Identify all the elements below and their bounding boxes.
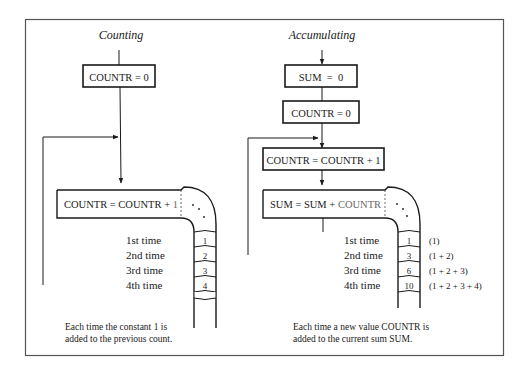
svg-text:(1 + 2 + 3): (1 + 2 + 3): [429, 266, 468, 276]
counting-init-text: COUNTR = 0: [89, 72, 149, 83]
svg-text:2: 2: [203, 251, 208, 261]
counting-panel: Counting COUNTR = 0 COUNTR = COUNTR + 1 …: [43, 28, 217, 344]
svg-text:1: 1: [407, 236, 412, 246]
svg-text:2nd time: 2nd time: [126, 249, 165, 261]
counting-title: Counting: [99, 28, 144, 42]
accumulating-caption-2: added to the current sum SUM.: [293, 334, 412, 344]
svg-text:6: 6: [407, 266, 412, 276]
svg-text:1st time: 1st time: [126, 234, 161, 246]
svg-text:4: 4: [203, 281, 208, 291]
counting-pipe-text: COUNTR = COUNTR + 1: [64, 199, 178, 210]
counting-caption-1: Each time the constant 1 is: [65, 322, 167, 332]
increment-text: COUNTR = COUNTR + 1: [267, 155, 381, 166]
accumulating-countr-init-text: COUNTR = 0: [291, 108, 351, 119]
svg-text:3: 3: [407, 251, 412, 261]
svg-text:(1): (1): [429, 236, 440, 246]
accumulating-title: Accumulating: [288, 28, 356, 42]
svg-text:3: 3: [203, 266, 208, 276]
svg-text:(1 + 2): (1 + 2): [429, 251, 454, 261]
svg-text:(1 + 2 + 3 + 4): (1 + 2 + 3 + 4): [429, 281, 482, 291]
svg-text:4th time: 4th time: [126, 279, 162, 291]
accumulating-caption-1: Each time a new value COUNTR is: [293, 322, 429, 332]
sum-init-text: SUM = 0: [299, 72, 343, 83]
svg-text:1st time: 1st time: [344, 234, 379, 246]
counting-accumulating-diagram: Counting COUNTR = 0 COUNTR = COUNTR + 1 …: [0, 0, 524, 370]
svg-text:4th time: 4th time: [344, 279, 380, 291]
accumulating-panel: Accumulating SUM = 0 COUNTR = 0 COUNTR =…: [248, 28, 482, 344]
svg-text:3rd time: 3rd time: [344, 264, 381, 276]
svg-text:10: 10: [405, 281, 415, 291]
svg-text:2nd time: 2nd time: [344, 249, 383, 261]
counting-caption-2: added to the previous count.: [65, 334, 172, 344]
accumulating-pipe-text: SUM = SUM + COUNTR: [270, 199, 381, 210]
svg-text:3rd time: 3rd time: [126, 264, 163, 276]
svg-text:1: 1: [203, 236, 208, 246]
